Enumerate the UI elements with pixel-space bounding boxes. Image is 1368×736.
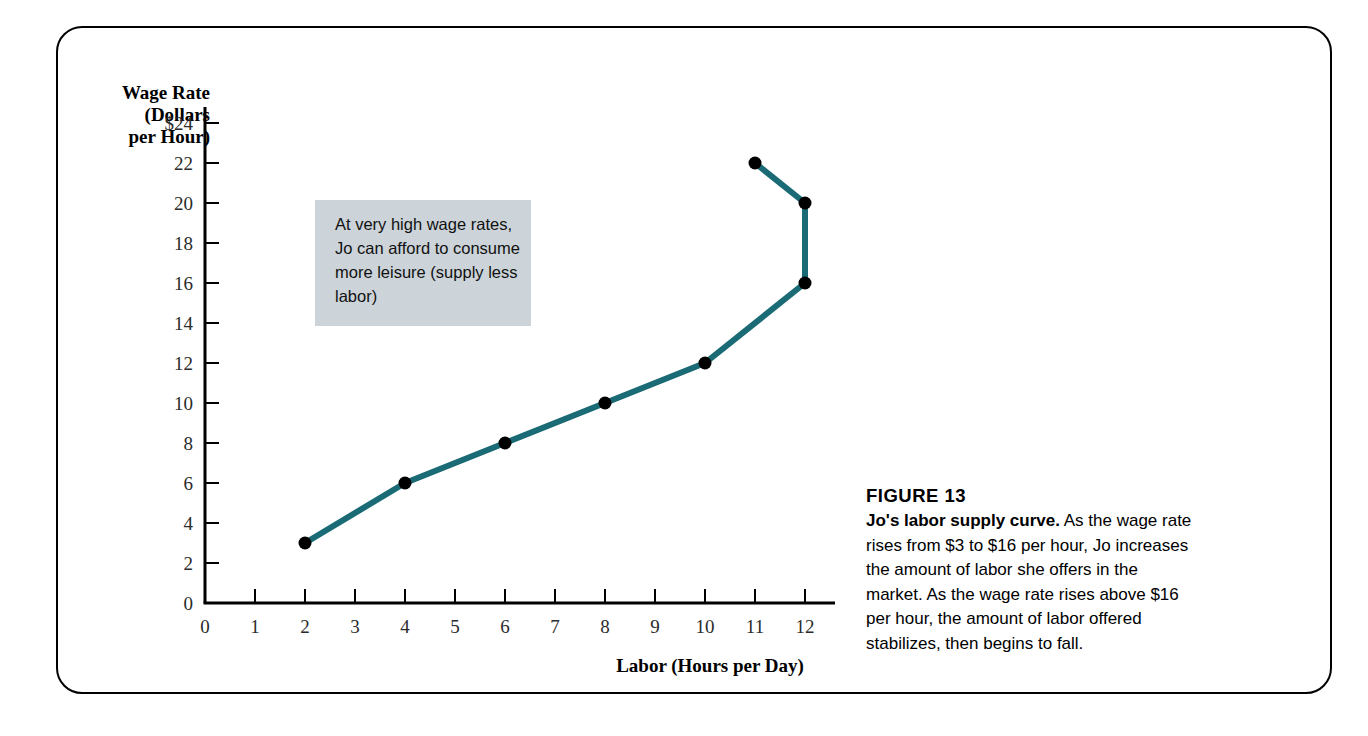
x-axis-tick-label: 8 [585, 616, 625, 638]
data-point-marker [599, 397, 612, 410]
axis-ticks-group [205, 123, 805, 603]
y-axis-tick-label: 10 [133, 393, 193, 415]
y-axis-tick-label: 8 [133, 433, 193, 455]
y-axis-tick-label: $24 [133, 113, 193, 135]
data-point-marker [499, 437, 512, 450]
figure-number-label: FIGURE 13 [866, 484, 1196, 508]
x-axis-tick-label: 6 [485, 616, 525, 638]
x-axis-tick-label: 5 [435, 616, 475, 638]
x-axis-tick-label: 0 [185, 616, 225, 638]
figure-caption-block: FIGURE 13 Jo's labor supply curve. As th… [866, 484, 1196, 656]
y-axis-tick-label: 6 [133, 473, 193, 495]
x-axis-tick-label: 2 [285, 616, 325, 638]
y-axis-tick-label: 22 [133, 153, 193, 175]
y-axis-tick-label: 14 [133, 313, 193, 335]
x-axis-tick-label: 11 [735, 616, 775, 638]
annotation-callout-text: At very high wage rates, Jo can afford t… [335, 212, 521, 308]
x-axis-tick-label: 10 [685, 616, 725, 638]
axes-group [204, 107, 836, 603]
x-axis-title: Labor (Hours per Day) [560, 655, 860, 677]
x-axis-tick-label: 1 [235, 616, 275, 638]
x-axis-tick-label: 4 [385, 616, 425, 638]
data-point-marker [799, 197, 812, 210]
y-axis-tick-label: 16 [133, 273, 193, 295]
data-point-marker [799, 277, 812, 290]
data-point-marker [699, 357, 712, 370]
y-axis-tick-label: 0 [133, 593, 193, 615]
x-axis-tick-label: 3 [335, 616, 375, 638]
x-axis-tick-label: 7 [535, 616, 575, 638]
y-axis-tick-label: 4 [133, 513, 193, 535]
y-axis-tick-label: 12 [133, 353, 193, 375]
data-point-marker [749, 157, 762, 170]
x-axis-tick-label: 12 [785, 616, 825, 638]
x-axis-tick-label: 9 [635, 616, 675, 638]
data-point-marker [399, 477, 412, 490]
annotation-callout-box: At very high wage rates, Jo can afford t… [315, 200, 531, 326]
y-axis-tick-label: 18 [133, 233, 193, 255]
y-axis-tick-label: 20 [133, 193, 193, 215]
figure-caption-lead: Jo's labor supply curve. [866, 511, 1060, 530]
data-point-marker [299, 537, 312, 550]
figure-caption-rest: As the wage rate rises from $3 to $16 pe… [866, 511, 1191, 653]
y-axis-tick-label: 2 [133, 553, 193, 575]
figure-caption-text: Jo's labor supply curve. As the wage rat… [866, 509, 1196, 656]
